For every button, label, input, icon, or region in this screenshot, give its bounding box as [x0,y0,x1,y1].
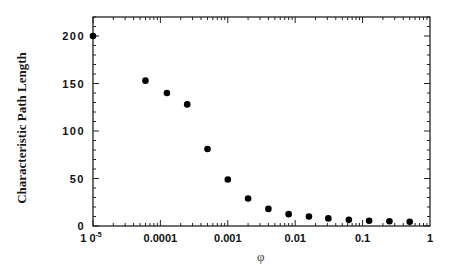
data-point [386,218,393,225]
x-axis-label: φ [257,249,265,265]
data-point [325,215,332,222]
data-point [285,211,292,218]
y-tick-label: 100 [62,125,85,137]
data-point [406,218,413,225]
data-point [184,101,191,108]
x-tick-label: 0.01 [284,232,305,244]
data-point [245,195,252,202]
x-tick-label: 1 0-5 [80,231,102,244]
data-point [346,217,353,224]
y-axis-label: Characteristic Path Length [14,48,30,208]
y-tick-label: 0 [77,220,85,232]
y-tick-label: 200 [62,30,85,42]
plot-frame [93,17,430,226]
x-tick-label: 0.001 [214,232,242,244]
y-tick-label: 50 [70,173,85,185]
y-tick-label: 150 [62,78,85,90]
data-point [265,206,272,213]
data-point [164,90,171,97]
data-point [225,176,232,183]
data-series [90,33,413,225]
x-axis: 1 0-50.00010.0010.010.11 [80,17,433,244]
data-point [90,33,97,40]
scatter-chart: 050100150200 1 0-50.00010.0010.010.11 [0,0,451,273]
data-point [306,213,313,220]
x-tick-label: 0.0001 [144,232,178,244]
data-point [366,217,373,224]
x-tick-label: 0.1 [355,232,370,244]
data-point [142,77,149,84]
x-tick-label: 1 [427,232,433,244]
data-point [204,146,211,153]
